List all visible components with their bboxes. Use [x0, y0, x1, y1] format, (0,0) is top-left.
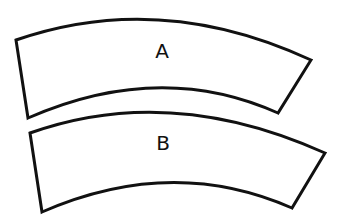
shape-b-label: B — [156, 131, 170, 155]
shape-a: A — [16, 19, 311, 118]
arc-segment-b — [30, 112, 325, 212]
diagram-canvas: A B — [0, 0, 337, 223]
shape-b: B — [30, 112, 325, 212]
arc-segment-a — [16, 19, 311, 118]
shape-a-label: A — [155, 39, 169, 63]
